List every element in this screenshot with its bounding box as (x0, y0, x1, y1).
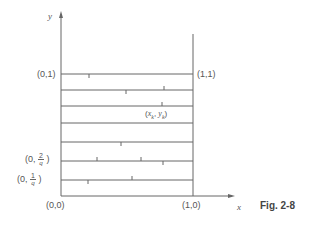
label-suffix: ) (38, 174, 41, 184)
label-two-over-q: (0, 2q ) (25, 152, 49, 167)
label-top-left: (0,1) (37, 70, 56, 79)
horizontal-lines (61, 74, 193, 180)
x-axis-arrowhead (228, 194, 235, 198)
denominator: q (38, 160, 44, 167)
fraction: 2q (38, 152, 44, 167)
y-axis-arrowhead (59, 11, 63, 18)
label-origin: (0,0) (46, 201, 65, 210)
label-one-zero: (1,0) (182, 201, 201, 210)
point-label-xk-yk: (xk, yk) (145, 110, 167, 120)
y-axis-label: y (48, 12, 52, 21)
label-one-over-q: (0, 1q ) (17, 172, 41, 187)
label-top-right: (1,1) (197, 70, 216, 79)
label-prefix: (0, (17, 174, 28, 184)
fraction: 1q (30, 172, 36, 187)
paren-close: ) (165, 109, 168, 118)
label-prefix: (0, (25, 154, 36, 164)
label-suffix: ) (46, 154, 49, 164)
x-axis-label: x (237, 203, 241, 212)
figure-caption: Fig. 2-8 (260, 200, 295, 211)
denominator: q (30, 180, 36, 187)
